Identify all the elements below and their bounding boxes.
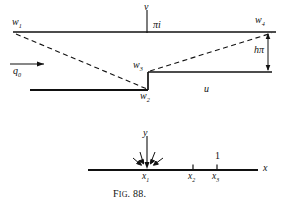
label-v-axis: v [144,2,148,12]
label-x3: x3 [212,172,219,184]
label-u-axis: u [204,84,209,94]
y-axis-arrow-head [145,162,150,169]
label-x-axis: x [263,163,267,173]
label-w2: w2 [140,91,150,103]
label-h-pi: hπ [254,45,264,55]
label-w3: w3 [133,60,143,72]
label-x2: x2 [188,172,195,184]
label-pi-i: πi [153,20,161,30]
label-y-axis: y [143,128,147,138]
label-x1: x1 [142,172,149,184]
label-w4: w4 [255,15,265,27]
hpi-arrow-head-down [266,65,271,71]
label-q0-flux: q0 [13,66,21,78]
label-w1: w1 [12,17,22,29]
figure-caption: FIG. 88. [113,189,146,199]
dashed-streamline-left [16,34,147,89]
flux-arrow-head [37,61,44,66]
label-unit-one: 1 [215,151,220,161]
hpi-arrow-head-up [266,33,271,39]
